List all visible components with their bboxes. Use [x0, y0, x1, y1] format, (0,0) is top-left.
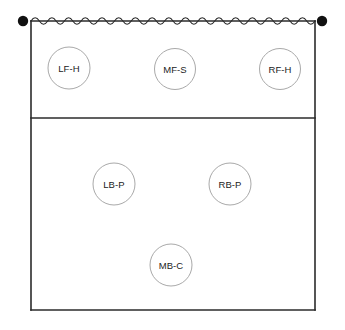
volleyball-court-diagram: LF-HMF-SRF-HLB-PRB-PMB-C: [0, 0, 345, 330]
player-marker-rf-h[interactable]: RF-H: [260, 49, 301, 90]
player-marker-mf-s[interactable]: MF-S: [155, 49, 196, 90]
player-label-lb-p: LB-P: [103, 179, 125, 190]
net-post-left-dot: [18, 16, 28, 26]
player-label-mb-c: MB-C: [159, 260, 184, 271]
player-label-rb-p: RB-P: [218, 179, 241, 190]
player-marker-lb-p[interactable]: LB-P: [93, 163, 135, 205]
player-marker-mb-c[interactable]: MB-C: [150, 244, 192, 286]
player-markers-layer: LF-HMF-SRF-HLB-PRB-PMB-C: [48, 47, 301, 286]
player-label-mf-s: MF-S: [163, 64, 187, 75]
player-label-lf-h: LF-H: [58, 63, 80, 74]
net-post-right-dot: [317, 16, 327, 26]
player-label-rf-h: RF-H: [268, 64, 291, 75]
court-svg-canvas: LF-HMF-SRF-HLB-PRB-PMB-C: [0, 0, 345, 330]
player-marker-lf-h[interactable]: LF-H: [48, 47, 90, 89]
player-marker-rb-p[interactable]: RB-P: [209, 163, 251, 205]
